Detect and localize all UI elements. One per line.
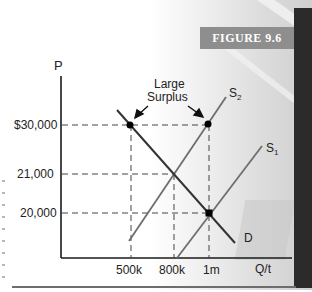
y-tick-30000: $30,000 <box>14 118 57 132</box>
y-tick-20000: 20,000 <box>20 206 57 220</box>
annotation-arrows <box>135 106 203 118</box>
y-tick-21000: 21,000 <box>17 167 54 181</box>
bottom-rule <box>12 286 296 288</box>
annotation-surplus: Surplus <box>147 90 188 104</box>
demand-curve <box>117 110 235 243</box>
point-s2-30000 <box>205 121 212 128</box>
x-tick-800k: 800k <box>159 263 185 277</box>
supply-curve-s2 <box>129 97 226 241</box>
dashed-guides <box>62 125 209 258</box>
x-tick-500k: 500k <box>116 263 142 277</box>
point-equilibrium <box>206 210 213 217</box>
point-demand-30000 <box>127 122 134 129</box>
s2-label: S2 <box>229 86 241 102</box>
y-axis-label: P <box>54 58 63 73</box>
x-tick-1m: 1m <box>203 263 220 277</box>
s1-label: S1 <box>266 141 278 157</box>
annotation-large: Large <box>154 77 185 91</box>
d-label: D <box>244 231 253 245</box>
x-axis-label: Q/t <box>255 262 271 276</box>
